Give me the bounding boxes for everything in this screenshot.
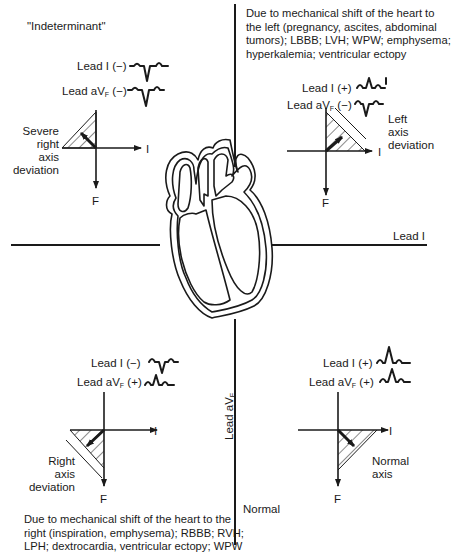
description-line: right (inspiration, emphysema); RBBB; RV… — [24, 527, 244, 541]
waveform-br-lead-i-positive — [377, 347, 410, 363]
label-line: axis — [388, 126, 434, 139]
tl-lead-i-label: Lead I (−) — [77, 59, 127, 73]
br-lead-avf-main: Lead aV — [309, 376, 352, 388]
bl-axis-f-label: F — [100, 492, 107, 506]
label-line: axis — [5, 151, 59, 164]
tl-lead-avf-main: Lead aV — [62, 85, 105, 97]
br-axis-f-label: F — [334, 492, 341, 506]
label-line: right — [5, 138, 59, 151]
indeterminant-label: "Indeterminant" — [27, 19, 105, 33]
axis-diagram-severe-right — [62, 110, 141, 188]
waveform-tl-lead-i-negative — [130, 63, 168, 81]
waveform-bl-lead-i-negative — [149, 359, 178, 373]
label-line: deviation — [20, 481, 75, 494]
axis-diagram-right — [66, 392, 157, 486]
br-lead-avf-tail: (+) — [356, 376, 374, 388]
waveform-tl-lead-avf-negative — [128, 87, 164, 106]
bl-lead-i-label: Lead I (−) — [91, 356, 141, 370]
waveform-bl-lead-avf-positive — [145, 375, 174, 385]
description-line: LPH; dextrocardia, ventricular ectopy; W… — [24, 540, 244, 554]
avf-axis-sub: F — [229, 393, 236, 397]
tr-axis-f-label: F — [322, 196, 329, 210]
severe-right-axis-deviation-label: Severe right axis deviation — [5, 125, 59, 177]
left-axis-deviation-label: Left axis deviation — [388, 113, 434, 152]
description-line: Due to mechanical shift of the heart to … — [24, 513, 244, 527]
tr-lead-avf-label: Lead aVF (−) — [287, 98, 352, 116]
label-line: Severe — [5, 125, 59, 138]
description-line: the left (pregnancy, ascites, abdominal — [246, 21, 451, 35]
heart-illustration — [166, 139, 272, 318]
lead-i-axis-label: Lead I — [393, 229, 425, 243]
br-axis-i-label: I — [389, 424, 392, 438]
normal-quadrant-title: Normal — [243, 502, 280, 516]
right-axis-deviation-label: Right axis deviation — [20, 455, 75, 494]
label-line: axis — [20, 468, 75, 481]
waveform-br-lead-avf-positive — [380, 369, 410, 382]
label-line: Right — [20, 455, 75, 468]
description-line: tumors); LBBB; LVH; WPW; emphysema; — [246, 34, 451, 48]
tr-lead-i-label: Lead I (+) — [302, 81, 352, 95]
label-line: Normal — [372, 455, 409, 468]
lead-avf-axis-label: Lead aVF — [222, 393, 240, 440]
axis-diagram-left — [287, 108, 372, 195]
label-line: deviation — [388, 139, 434, 152]
label-line: Left — [388, 113, 434, 126]
normal-axis-label: Normal axis — [372, 455, 409, 481]
waveform-tr-lead-avf-negative — [355, 101, 383, 116]
br-lead-avf-label: Lead aVF (+) — [309, 375, 374, 393]
left-shift-description: Due to mechanical shift of the heart to … — [246, 7, 451, 61]
br-lead-i-label: Lead I (+) — [323, 356, 373, 370]
tl-lead-avf-tail: (−) — [109, 85, 127, 97]
tl-lead-avf-label: Lead aVF (−) — [62, 84, 127, 102]
waveform-tr-lead-i-positive — [357, 78, 385, 88]
tr-axis-i-label: I — [378, 145, 381, 159]
tl-axis-i-label: I — [146, 142, 149, 156]
bl-lead-avf-main: Lead aV — [77, 376, 120, 388]
tl-axis-f-label: F — [92, 194, 99, 208]
bl-lead-avf-tail: (+) — [124, 376, 142, 388]
label-line: deviation — [5, 164, 59, 177]
description-line: Due to mechanical shift of the heart to — [246, 7, 451, 21]
avf-axis-main: Lead aV — [223, 397, 235, 440]
bl-axis-i-label: I — [154, 424, 157, 438]
description-line: hyperkalemia; ventricular ectopy — [246, 48, 451, 62]
tr-lead-avf-main: Lead aV — [287, 99, 330, 111]
bl-lead-avf-label: Lead aVF (+) — [77, 375, 142, 393]
tr-lead-avf-tail: (−) — [334, 99, 352, 111]
label-line: axis — [372, 468, 409, 481]
right-shift-description: Due to mechanical shift of the heart to … — [24, 513, 244, 554]
